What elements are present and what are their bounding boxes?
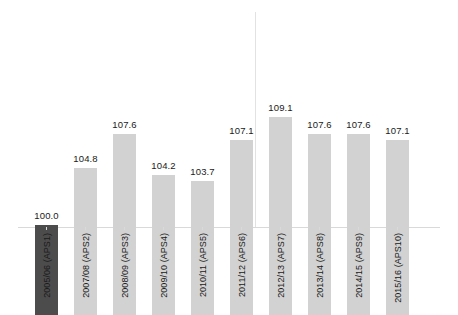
category-label-text: 2005/06 (APS1) [42,233,52,298]
bar-value-label: 107.1 [378,125,417,136]
x-axis-tick [46,227,47,230]
category-label-text: 2015/16 (APS10) [393,233,403,303]
x-axis-tick [241,227,242,230]
x-axis-tick [124,227,125,230]
category-label: 2009/10 (APS4) [144,233,183,313]
category-label: 2015/16 (APS10) [378,233,417,313]
x-axis-tick [163,227,164,230]
x-axis-tick [358,227,359,230]
category-label-text: 2012/13 (APS7) [276,233,286,298]
bar-value-label: 103.7 [183,166,222,177]
category-label-text: 2007/08 (APS2) [81,233,91,298]
category-label: 2014/15 (APS9) [339,233,378,313]
x-axis-tick [397,227,398,230]
bar-value-label: 107.6 [105,119,144,130]
bar-value-label: 107.1 [222,125,261,136]
category-label-text: 2009/10 (APS4) [159,233,169,298]
bar-value-label: 109.1 [261,102,300,113]
category-label-text: 2010/11 (APS5) [198,233,208,297]
category-label: 2012/13 (APS7) [261,233,300,313]
category-label: 2013/14 (APS8) [300,233,339,313]
bar-value-label: 104.2 [144,160,183,171]
bar-value-label: 104.8 [66,153,105,164]
category-label: 2007/08 (APS2) [66,233,105,313]
category-label: 2008/09 (APS3) [105,233,144,313]
bar-value-label: 107.6 [300,119,339,130]
category-label-text: 2008/09 (APS3) [120,233,130,298]
bar-chart: 100.0104.8107.6104.2103.7107.1109.1107.6… [0,0,458,315]
x-axis-tick [85,227,86,230]
category-label: 2010/11 (APS5) [183,233,222,313]
x-axis-tick [319,227,320,230]
bar-value-label: 107.6 [339,119,378,130]
category-label-text: 2013/14 (APS8) [315,233,325,298]
category-label: 2005/06 (APS1) [27,233,66,313]
x-axis-tick [280,227,281,230]
category-label-text: 2014/15 (APS9) [354,233,364,298]
category-label: 2011/12 (APS6) [222,233,261,313]
x-axis-tick [202,227,203,230]
category-label-text: 2011/12 (APS6) [237,233,247,297]
bar-value-label: 100.0 [27,210,66,221]
